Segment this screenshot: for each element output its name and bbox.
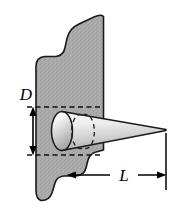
length-label: L: [118, 166, 128, 185]
plate-shape: [36, 15, 104, 200]
plate-outline: [36, 15, 104, 200]
cone-plate-diagram: D L: [0, 0, 180, 213]
diameter-label: D: [19, 85, 33, 104]
cone-body-fill: [62, 112, 166, 150]
cone-shape: [52, 112, 167, 151]
diameter-dimension: D: [19, 85, 37, 156]
cone-base-ellipse: [52, 112, 73, 151]
figure-container: D L: [0, 0, 180, 213]
length-arrowhead-right: [157, 171, 167, 178]
